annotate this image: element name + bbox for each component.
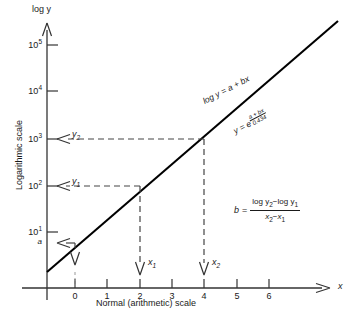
chart-svg [0,0,352,325]
y-tick-label-1e4-exp: 4 [38,84,42,91]
y-tick-label-1e3-exp: 3 [38,132,42,139]
y-axis-symbol-label: log y [32,5,51,14]
marker-label-y1-sub: 1 [77,181,81,188]
marker-label-x1: x1 [148,258,156,269]
y-tick-label-1e3-base: 10 [28,134,38,144]
y-tick-label-1e5: 105 [8,39,42,50]
data-line-regression [47,21,338,272]
semilog-chart-figure: log y x 105 104 103 102 101 a y1 y2 x1 x… [0,0,352,325]
x-axis-title-text: Normal (arithmetic) scale [96,298,196,308]
x-tick-label-4-text: 4 [201,291,206,301]
marker-label-x1-sub: 1 [153,262,157,269]
x2-arrowhead [200,262,209,275]
marker-label-y2: y2 [72,130,80,141]
y-tick-label-1e1-base: 10 [28,227,38,237]
y-tick-label-1e4: 104 [8,85,42,96]
slope-num-logy1-base: log y [277,197,294,206]
annotation-slope-formula: b = log y2−log y1 x2−x1 [234,197,300,223]
slope-formula-denominator: x2−x1 [250,211,300,224]
slope-num-logy1-sub: 1 [294,201,298,208]
y-tick-label-1e5-base: 10 [28,40,38,50]
slope-formula-fraction: log y2−log y1 x2−x1 [250,197,300,223]
y-axis-title-text: Logarithmic scale [14,120,24,190]
slope-formula-numerator: log y2−log y1 [250,197,300,211]
slope-num-logy2-base: log y [252,197,269,206]
x-tick-label-0: 0 [65,292,85,301]
slope-formula-lhs: b [234,205,239,215]
slope-formula-equals: = [242,205,247,215]
y-tick-label-1e4-base: 10 [28,86,38,96]
marker-label-x2-sub: 2 [217,262,221,269]
x-axis-symbol-label: x [338,282,343,291]
marker-label-a: a [8,238,42,246]
x-tick-label-5: 5 [227,292,247,301]
x-axis-title: Normal (arithmetic) scale [96,298,196,308]
y-tick-label-1e1: 101 [8,226,42,237]
y-tick-label-1e1-exp: 1 [38,225,42,232]
x-tick-label-6-text: 6 [266,291,271,301]
x1-arrowhead [136,262,145,275]
x-tick-label-4: 4 [194,292,214,301]
y-tick-label-1e5-exp: 5 [38,38,42,45]
origin-arrowhead [71,252,80,265]
slope-den-x1-sub: 1 [281,215,285,222]
marker-label-a-text: a [38,237,42,246]
x-axis-symbol-text: x [338,281,343,291]
y-axis-symbol-text: log y [32,4,51,14]
marker-label-y1: y1 [72,177,80,188]
y-tick-label-1e2-base: 10 [28,181,38,191]
marker-label-x2: x2 [212,258,220,269]
y-axis-title: Logarithmic scale [14,115,24,195]
x-tick-label-5-text: 5 [234,291,239,301]
x-tick-label-0-text: 0 [72,291,77,301]
x-tick-label-6: 6 [259,292,279,301]
marker-label-y2-sub: 2 [77,134,81,141]
y-tick-label-1e2-exp: 2 [38,179,42,186]
